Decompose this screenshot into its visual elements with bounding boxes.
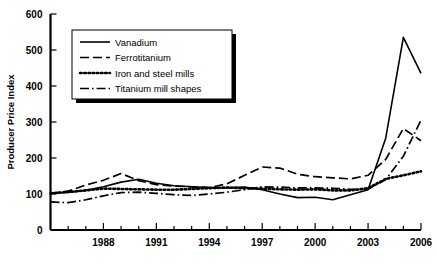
legend-label-iron-and-steel-mills: Iron and steel mills: [115, 68, 194, 79]
x-axis-tick-label: 2006: [410, 237, 433, 248]
x-axis-tick-label: 2000: [304, 237, 327, 248]
legend-label-vanadium: Vanadium: [115, 37, 157, 48]
x-axis-tick-labels: 1988199119941997200020032006: [92, 237, 432, 248]
series-line-ferrotitanium: [51, 128, 422, 193]
x-axis-tick-label: 1997: [251, 237, 274, 248]
y-axis-tick-label: 600: [26, 9, 43, 20]
x-axis-tick-label: 2003: [357, 237, 380, 248]
y-axis-tick-labels: 0100200300400500600: [26, 9, 43, 236]
line-chart: 0100200300400500600 19881991199419972000…: [0, 0, 437, 264]
y-axis-tick-label: 200: [26, 153, 43, 164]
legend-label-ferrotitanium: Ferrotitanium: [115, 52, 171, 63]
y-axis-title: Producer Price Index: [5, 74, 16, 170]
x-axis-tick-label: 1988: [92, 237, 115, 248]
y-axis-tick-label: 500: [26, 45, 43, 56]
x-axis-tick-label: 1994: [198, 237, 221, 248]
y-axis-tick-label: 400: [26, 81, 43, 92]
y-axis-tick-label: 0: [37, 225, 43, 236]
chart-container: 0100200300400500600 19881991199419972000…: [0, 0, 437, 264]
legend-label-titanium-mill-shapes: Titanium mill shapes: [115, 83, 201, 94]
y-axis-tick-label: 300: [26, 117, 43, 128]
chart-legend: VanadiumFerrotitaniumIron and steel mill…: [72, 30, 236, 103]
x-axis-tick-label: 1991: [145, 237, 168, 248]
y-axis-tick-label: 100: [26, 189, 43, 200]
y-axis-title-text: Producer Price Index: [5, 74, 16, 170]
